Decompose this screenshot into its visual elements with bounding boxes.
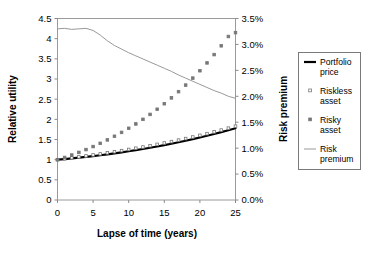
chart-figure: 00.511.522.533.544.5 0.0%0.5%1.0%1.5%2.0… <box>0 0 368 258</box>
legend-label-line2: price <box>320 67 339 77</box>
y2-tick-label: 3.0% <box>242 39 264 50</box>
y2-tick-label: 2.5% <box>242 65 264 76</box>
x-tick-label: 10 <box>123 207 134 218</box>
x-axis-title: Lapse of time (years) <box>97 228 197 239</box>
legend-label-line1: Portfolio <box>320 57 352 67</box>
x-tick-label: 20 <box>195 207 206 218</box>
y-tick-label: 4.5 <box>38 13 51 24</box>
chart-legend: PortfoliopriceRisklessassetRiskyassetRis… <box>299 53 361 170</box>
y-tick-label: 0 <box>46 194 51 205</box>
y2-axis-title: Risk premium <box>278 76 289 142</box>
y-tick-label: 1.5 <box>38 134 51 145</box>
y-tick-label: 3.5 <box>38 53 51 64</box>
y2-tick-label: 3.5% <box>242 13 264 24</box>
legend-label-line1: Risk <box>320 144 337 154</box>
legend-label-line2: premium <box>320 154 353 164</box>
y-tick-label: 4 <box>46 33 51 44</box>
x-tick-label: 15 <box>159 207 170 218</box>
y-tick-label: 3 <box>46 73 51 84</box>
x-tick-label: 5 <box>90 207 95 218</box>
y-axis-title: Relative utility <box>7 75 18 143</box>
y-tick-label: 2.5 <box>38 94 51 105</box>
y2-tick-label: 1.0% <box>242 143 264 154</box>
y-tick-label: 1 <box>46 154 51 165</box>
y2-tick-label: 0.5% <box>242 168 264 179</box>
relative-utility-risk-premium-chart: 00.511.522.533.544.5 0.0%0.5%1.0%1.5%2.0… <box>0 0 368 258</box>
legend-label-line1: Risky <box>320 115 342 125</box>
y2-tick-label: 2.0% <box>242 91 264 102</box>
legend-label-line2: asset <box>320 125 341 135</box>
y2-tick-label: 1.5% <box>242 117 264 128</box>
x-tick-label: 25 <box>230 207 241 218</box>
x-tick-label: 0 <box>55 207 60 218</box>
y-tick-label: 0.5 <box>38 174 51 185</box>
legend-label-line2: asset <box>320 96 341 106</box>
y-tick-label: 2 <box>46 114 51 125</box>
y2-tick-label: 0.0% <box>242 194 264 205</box>
legend-label-line1: Riskless <box>320 86 352 96</box>
